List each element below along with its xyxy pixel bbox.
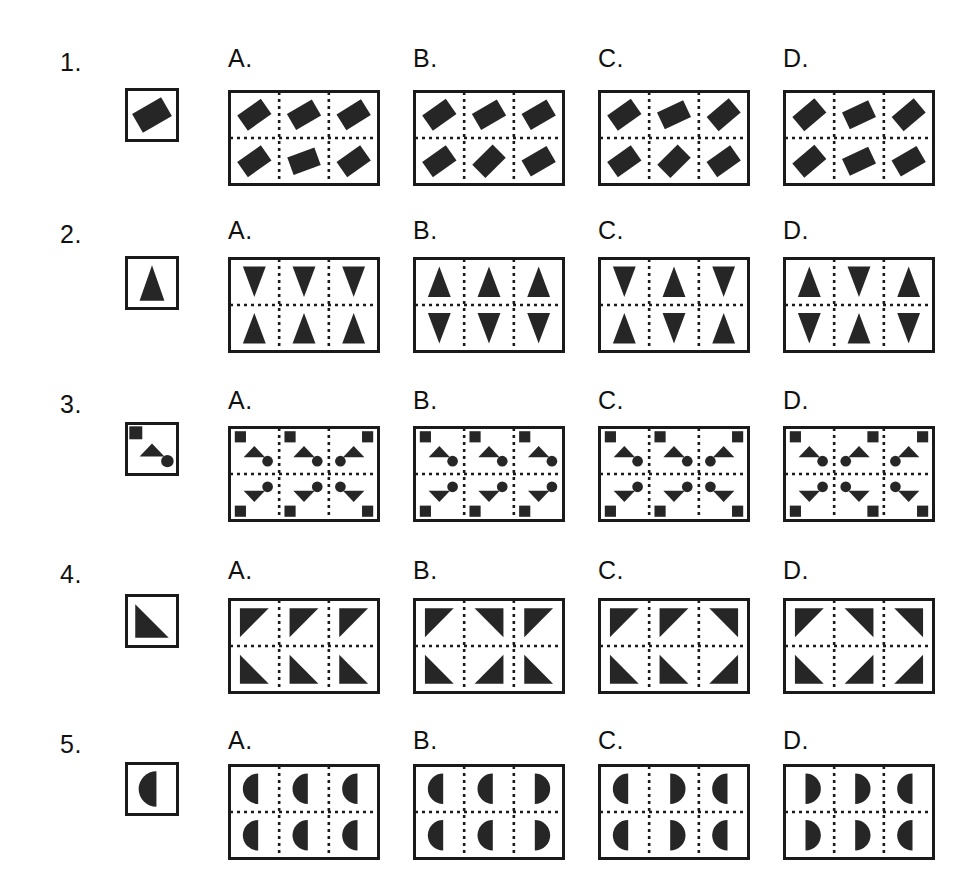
option-letter-A[interactable]: A. [228,44,253,73]
option-D[interactable] [783,90,935,186]
option-panel-5-A[interactable] [228,764,380,860]
question-number: 1. [60,48,82,77]
key-figure-box [125,422,179,476]
option-letter-C[interactable]: C. [598,726,624,755]
question-row-2: 2.A.B.C.D. [0,212,971,372]
question-number: 4. [60,560,82,589]
option-B[interactable] [413,90,565,186]
option-B[interactable] [413,426,565,522]
option-letter-D[interactable]: D. [783,216,809,245]
option-C[interactable] [598,598,750,694]
option-panel-1-B[interactable] [413,90,565,186]
option-panel-4-A[interactable] [228,598,380,694]
question-number: 5. [60,730,82,759]
option-panel-5-C[interactable] [598,764,750,860]
option-C[interactable] [598,764,750,860]
option-D[interactable] [783,257,935,353]
option-panel-5-B[interactable] [413,764,565,860]
option-panel-3-C[interactable] [598,426,750,522]
option-D[interactable] [783,426,935,522]
option-letter-C[interactable]: C. [598,386,624,415]
option-letter-A[interactable]: A. [228,726,253,755]
option-letter-C[interactable]: C. [598,216,624,245]
option-D[interactable] [783,598,935,694]
question-number: 3. [60,390,82,419]
key-figure-4 [125,594,179,648]
option-C[interactable] [598,257,750,353]
option-letter-B[interactable]: B. [413,44,438,73]
option-B[interactable] [413,764,565,860]
question-number: 2. [60,220,82,249]
question-row-4: 4.A.B.C.D. [0,552,971,720]
key-figure-box [125,762,179,816]
option-B[interactable] [413,257,565,353]
option-letter-A[interactable]: A. [228,216,253,245]
option-panel-4-C[interactable] [598,598,750,694]
option-panel-1-A[interactable] [228,90,380,186]
option-A[interactable] [228,598,380,694]
option-D[interactable] [783,764,935,860]
option-A[interactable] [228,764,380,860]
key-figure-3 [125,422,179,476]
option-panel-3-A[interactable] [228,426,380,522]
option-letter-A[interactable]: A. [228,386,253,415]
option-A[interactable] [228,426,380,522]
option-C[interactable] [598,426,750,522]
key-figure-2 [125,256,179,310]
question-row-3: 3.A.B.C.D. [0,382,971,550]
option-letter-D[interactable]: D. [783,44,809,73]
option-letter-D[interactable]: D. [783,556,809,585]
option-A[interactable] [228,257,380,353]
option-panel-3-B[interactable] [413,426,565,522]
option-A[interactable] [228,90,380,186]
key-figure-5 [125,762,179,816]
test-sheet: 1.A.B.C.D.2.A.B.C.D.3.A.B.C.D.4.A.B.C.D.… [0,0,971,892]
key-figure-1 [125,88,179,142]
question-row-1: 1.A.B.C.D. [0,40,971,210]
option-letter-B[interactable]: B. [413,556,438,585]
option-panel-2-A[interactable] [228,257,380,353]
option-letter-B[interactable]: B. [413,216,438,245]
option-letter-B[interactable]: B. [413,386,438,415]
option-panel-2-C[interactable] [598,257,750,353]
option-letter-C[interactable]: C. [598,44,624,73]
option-panel-2-B[interactable] [413,257,565,353]
option-panel-4-B[interactable] [413,598,565,694]
option-letter-D[interactable]: D. [783,726,809,755]
key-figure-box [125,256,179,310]
option-letter-C[interactable]: C. [598,556,624,585]
option-panel-2-D[interactable] [783,257,935,353]
option-panel-1-C[interactable] [598,90,750,186]
option-panel-1-D[interactable] [783,90,935,186]
option-letter-A[interactable]: A. [228,556,253,585]
option-letter-B[interactable]: B. [413,726,438,755]
option-panel-4-D[interactable] [783,598,935,694]
key-figure-box [125,594,179,648]
question-row-5: 5.A.B.C.D. [0,722,971,882]
option-panel-3-D[interactable] [783,426,935,522]
option-B[interactable] [413,598,565,694]
key-figure-box [125,88,179,142]
option-letter-D[interactable]: D. [783,386,809,415]
option-panel-5-D[interactable] [783,764,935,860]
option-C[interactable] [598,90,750,186]
